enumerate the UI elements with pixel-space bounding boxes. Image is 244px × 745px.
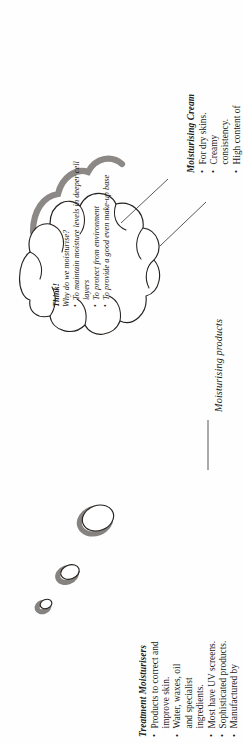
diagram-caption: Moisturising products — [213, 319, 224, 412]
cloud-question: Why do we moisturise? — [62, 161, 72, 307]
scanned-page: Moisturising Cream For dry skins. Creamy… — [0, 0, 243, 745]
treatment-moisturisers-title: Treatment Moisturisers — [138, 632, 148, 737]
treatment-moisturisers-block: Treatment Moisturisers Products to corre… — [138, 632, 241, 737]
moisturising-cream-block: Moisturising Cream For dry skins. Creamy… — [186, 94, 243, 173]
moisturising-cream-title: Moisturising Cream — [186, 94, 196, 173]
list-item: To provide a good even make-up base — [102, 161, 112, 307]
list-item: For dry skins. — [198, 94, 209, 173]
list-item: Most have UV screens. — [207, 632, 218, 737]
list-item: Water, waxes, oil — [172, 632, 183, 737]
cloud-heading: Think! — [52, 161, 62, 307]
connector-to-cream — [121, 179, 168, 223]
list-item-continuation: and specialist ingredients. — [184, 632, 207, 737]
list-item-continuation: improve skin. — [161, 632, 172, 737]
list-item: Sophisticated products. — [218, 632, 229, 737]
moisturising-cream-list: For dry skins. Creamy consistency. High … — [198, 94, 244, 173]
caption-leader-top — [160, 202, 206, 246]
list-item: Manufactured by — [229, 632, 240, 737]
cloud-text-block: Think! Why do we moisturise? To maintain… — [52, 161, 111, 307]
treatment-moisturisers-list: Products to correct and improve skin. Wa… — [150, 632, 241, 737]
list-item: High content of lightweight oils — [232, 94, 243, 173]
bubble-medium — [59, 562, 82, 582]
cloud-bullet-list: To maintain moisture levels in deeper ce… — [72, 161, 112, 307]
list-item: Creamy consistency. — [209, 94, 232, 173]
list-item: To maintain moisture levels in deeper ce… — [72, 161, 82, 307]
list-item: To protect from environment — [92, 161, 102, 307]
list-item: Products to correct and — [150, 632, 161, 737]
list-item-continuation: layers — [82, 161, 92, 307]
